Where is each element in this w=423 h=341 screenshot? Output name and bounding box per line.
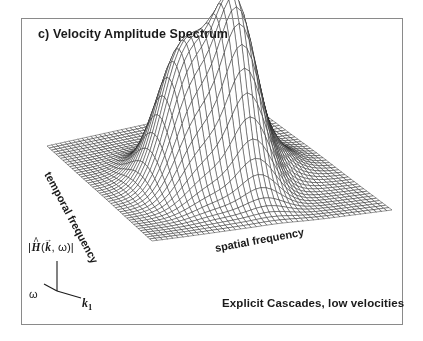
page-title: c) Velocity Amplitude Spectrum	[38, 28, 228, 41]
figure-panel: c) Velocity Amplitude Spectrum Explicit …	[0, 0, 423, 341]
k1-axis-label: k1	[82, 296, 92, 312]
condition-caption: Explicit Cascades, low velocities	[222, 298, 404, 310]
axis-triad: |H^(k→, ω)| ω k1	[26, 241, 136, 311]
k1-subscript: 1	[88, 302, 92, 312]
omega-axis-arm	[44, 284, 57, 291]
omega-axis-label: ω	[29, 288, 38, 300]
axis-triad-lines	[26, 241, 136, 311]
k1-axis-arm	[57, 291, 81, 298]
